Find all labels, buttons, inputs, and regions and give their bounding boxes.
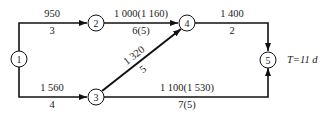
edge-2-4-duration: 6(5) (132, 25, 150, 37)
edge-4-5: 1 400 2 (195, 8, 268, 51)
edge-1-2: 950 3 (19, 8, 87, 51)
edge-1-3-duration: 4 (49, 99, 55, 110)
edge-3-5: 1 100(1 530) 7(5) (104, 68, 268, 111)
edge-3-5-duration: 7(5) (178, 99, 196, 111)
edge-4-5-cost: 1 400 (220, 8, 244, 19)
node-3-label: 3 (94, 92, 99, 103)
node-1: 1 (11, 51, 27, 67)
node-1-label: 1 (17, 54, 22, 65)
node-2: 2 (88, 15, 104, 31)
edge-1-3: 1 560 4 (19, 67, 87, 110)
edge-4-5-duration: 2 (229, 25, 234, 36)
edge-2-4: 1 000(1 160) 6(5) (104, 8, 178, 37)
edge-3-4-duration: 5 (137, 63, 148, 75)
edge-3-5-cost: 1 100(1 530) (160, 82, 215, 94)
node-5: 5 (260, 52, 276, 68)
node-2-label: 2 (94, 18, 99, 29)
node-4: 4 (179, 15, 195, 31)
network-diagram: 950 3 1 560 4 1 000(1 160) 6(5) 1 320 5 … (0, 0, 326, 119)
edge-1-2-duration: 3 (49, 25, 54, 36)
node-5-label: 5 (266, 55, 271, 66)
node-3: 3 (88, 89, 104, 105)
total-duration-label: T=11 d (287, 54, 318, 65)
edge-1-2-cost: 950 (44, 8, 60, 19)
edge-2-4-cost: 1 000(1 160) (114, 8, 169, 20)
edge-1-3-cost: 1 560 (40, 82, 64, 93)
edge-3-4-cost: 1 320 (121, 44, 146, 67)
node-4-label: 4 (185, 18, 190, 29)
